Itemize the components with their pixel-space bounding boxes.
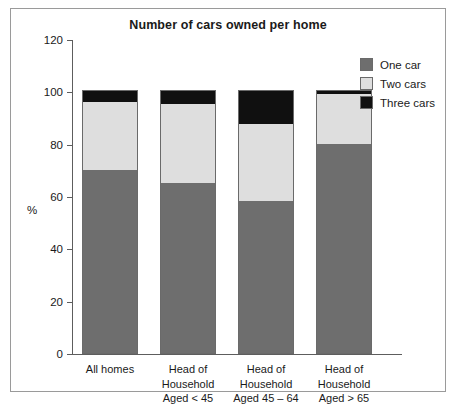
bar-column[interactable]: [316, 90, 372, 354]
legend-label: Three cars: [380, 97, 435, 109]
bar-segment-two[interactable]: [83, 102, 137, 170]
x-axis-category-line: Aged > 65: [296, 391, 392, 406]
y-axis-tick-label: 120: [44, 34, 63, 46]
y-axis-tick: [67, 40, 72, 41]
legend-item[interactable]: One car: [360, 55, 435, 74]
legend-item[interactable]: Three cars: [360, 93, 435, 112]
chart-figure: Number of cars owned per home % 02040608…: [10, 8, 446, 392]
y-axis-tick: [67, 92, 72, 93]
bar-column[interactable]: [82, 90, 138, 354]
legend-swatch-icon: [360, 58, 373, 71]
bar-segment-one[interactable]: [83, 170, 137, 353]
y-axis-tick: [67, 249, 72, 250]
x-axis-category-line: Head of: [296, 362, 392, 377]
chart-legend: One carTwo carsThree cars: [360, 55, 435, 112]
bar-segment-two[interactable]: [239, 124, 293, 201]
bar-column[interactable]: [160, 90, 216, 354]
bar-segment-one[interactable]: [317, 144, 371, 353]
legend-swatch-icon: [360, 96, 373, 109]
bar-column[interactable]: [238, 90, 294, 354]
y-axis-tick: [67, 302, 72, 303]
y-axis-tick-label: 80: [50, 139, 63, 151]
bar-segment-three[interactable]: [83, 91, 137, 101]
y-axis-tick: [67, 145, 72, 146]
x-axis-category-label: Head ofHouseholdAged > 65: [296, 362, 392, 406]
x-axis-category-line: Household: [296, 377, 392, 392]
plot-area: % 020406080100120 All homesHead ofHouseh…: [72, 40, 402, 354]
y-axis-line: [72, 40, 73, 354]
y-axis-tick: [67, 354, 72, 355]
legend-label: Two cars: [380, 78, 426, 90]
y-axis-title: %: [27, 204, 37, 216]
legend-item[interactable]: Two cars: [360, 74, 435, 93]
bar-segment-three[interactable]: [161, 91, 215, 104]
x-axis-line: [72, 354, 402, 355]
legend-label: One car: [380, 59, 421, 71]
y-axis-tick-label: 100: [44, 86, 63, 98]
bar-segment-two[interactable]: [161, 104, 215, 183]
y-axis-tick-label: 40: [50, 243, 63, 255]
y-axis-tick: [67, 197, 72, 198]
chart-title: Number of cars owned per home: [11, 18, 445, 32]
bar-segment-three[interactable]: [239, 91, 293, 124]
y-axis-tick-label: 60: [50, 191, 63, 203]
bar-segment-one[interactable]: [161, 183, 215, 353]
y-axis-tick-label: 0: [57, 348, 63, 360]
bar-segment-one[interactable]: [239, 201, 293, 353]
y-axis-tick-label: 20: [50, 296, 63, 308]
legend-swatch-icon: [360, 77, 373, 90]
